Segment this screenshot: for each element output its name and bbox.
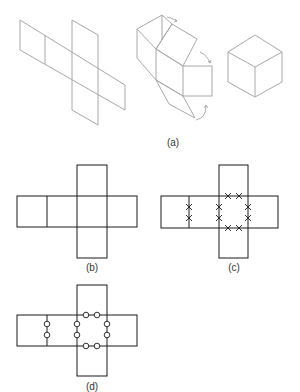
assembled-cube (228, 35, 282, 97)
cube-net-figure (0, 0, 300, 392)
net-c (161, 165, 278, 258)
net-b (17, 165, 137, 258)
panel-label-b: (b) (86, 262, 98, 273)
folding-net (137, 15, 212, 118)
panel-label-d: (d) (86, 381, 98, 392)
fold-arrow-icon (196, 106, 206, 120)
net-d (17, 285, 137, 376)
panel-label-a: (a) (167, 137, 179, 148)
fold-arrows (167, 17, 211, 120)
panel-label-c: (c) (228, 262, 240, 273)
isometric-cross-net (20, 20, 125, 125)
